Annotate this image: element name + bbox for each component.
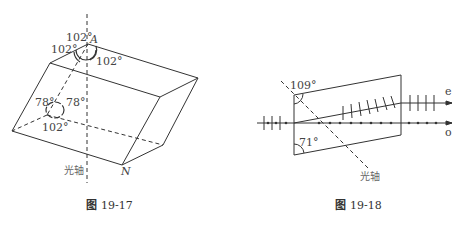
- angle-label-109: 109°: [290, 80, 317, 91]
- angle-label-71: 71°: [299, 137, 319, 148]
- o-ray-label: o: [445, 127, 452, 138]
- e-ray-polarization-ticks-inside: [343, 96, 395, 120]
- front-face: [12, 63, 160, 165]
- caption-number: 19-17: [101, 199, 133, 212]
- angle-label-a-left: 102°: [51, 44, 78, 55]
- optic-axis-label-1: 光轴: [64, 166, 84, 176]
- angle-label-low-left: 78°: [35, 97, 55, 108]
- angle-arc-109: [294, 94, 303, 104]
- wave-plate-diagram: [257, 75, 452, 168]
- angle-label-low-right: 78°: [66, 97, 86, 108]
- vertex-n-label: N: [121, 166, 131, 177]
- e-ray-label: e: [445, 86, 452, 97]
- angle-label-low-bottom: 102°: [42, 122, 69, 133]
- caption-number: 19-18: [350, 199, 382, 212]
- caption-prefix: 图: [86, 199, 97, 212]
- e-ray-arrowhead: [446, 101, 452, 105]
- right-face: [122, 78, 198, 165]
- figure-caption-19-18: 图19-18: [335, 196, 382, 212]
- caption-prefix: 图: [335, 199, 346, 212]
- e-ray-inside: [294, 103, 401, 123]
- o-ray-arrowhead: [446, 121, 452, 125]
- vertex-a-label: A: [90, 34, 98, 45]
- angle-label-a-right: 102°: [96, 56, 123, 67]
- figure-caption-19-17: 图19-17: [86, 196, 133, 212]
- angle-label-a-top: 102°: [66, 32, 93, 43]
- optic-axis-label-2: 光轴: [360, 172, 380, 182]
